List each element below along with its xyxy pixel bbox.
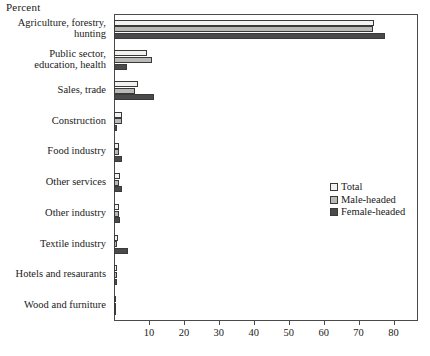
chart-legend: TotalMale-headedFemale-headed	[330, 181, 405, 219]
bar	[114, 272, 117, 278]
bar	[114, 88, 135, 94]
category-label: Food industry	[47, 145, 106, 157]
category-label: Textile industry	[40, 238, 106, 250]
bar-group	[114, 265, 418, 284]
bar	[114, 173, 120, 179]
x-axis-tick	[324, 321, 325, 325]
legend-swatch-female	[330, 208, 338, 216]
category-label: Agriculture, forestry,hunting	[18, 17, 106, 40]
x-axis-tick	[149, 321, 150, 325]
bar-group	[114, 296, 418, 315]
bar	[114, 204, 119, 210]
x-axis-tick	[254, 321, 255, 325]
legend-swatch-male	[330, 196, 338, 204]
bar	[114, 265, 117, 271]
legend-label: Total	[341, 181, 362, 194]
x-axis-tick-label: 70	[346, 327, 372, 338]
bar	[114, 217, 120, 223]
category-label: Public sector,education, health	[34, 48, 106, 71]
x-axis-tick	[184, 321, 185, 325]
x-axis-tick	[289, 321, 290, 325]
bar	[114, 112, 122, 118]
bar-group	[114, 81, 418, 100]
x-axis-tick-label: 30	[206, 327, 232, 338]
legend-label: Female-headed	[341, 206, 405, 219]
bar	[114, 296, 116, 302]
category-label: Sales, trade	[58, 84, 106, 96]
x-axis-tick-label: 40	[241, 327, 267, 338]
bar-group	[114, 112, 418, 131]
bar	[114, 241, 117, 247]
bar-group	[114, 50, 418, 69]
x-axis-tick-label: 10	[136, 327, 162, 338]
bar-group	[114, 143, 418, 162]
bar	[114, 64, 127, 70]
legend-item: Total	[330, 181, 405, 194]
x-axis-tick-label: 60	[311, 327, 337, 338]
bar	[114, 149, 119, 155]
bar	[114, 279, 117, 285]
x-axis-tick-label: 20	[171, 327, 197, 338]
bar	[114, 33, 385, 39]
category-label: Other industry	[45, 207, 106, 219]
bar	[114, 186, 122, 192]
bar	[114, 211, 119, 217]
category-label: Wood and furniture	[24, 299, 106, 311]
category-label: Other services	[46, 176, 106, 188]
category-axis-labels: Agriculture, forestry,huntingPublic sect…	[0, 14, 110, 321]
bar	[114, 303, 116, 309]
legend-label: Male-headed	[341, 194, 396, 207]
x-axis-tick-label: 80	[381, 327, 407, 338]
x-axis-tick	[394, 321, 395, 325]
bar	[114, 143, 119, 149]
bar	[114, 309, 116, 315]
category-label: Hotels and resaurants	[16, 268, 106, 280]
bar-group	[114, 20, 418, 39]
legend-swatch-total	[330, 183, 338, 191]
bar	[114, 50, 147, 56]
x-axis-tick	[359, 321, 360, 325]
category-label: Construction	[52, 115, 106, 127]
bar	[114, 57, 152, 63]
legend-item: Female-headed	[330, 206, 405, 219]
bar	[114, 156, 122, 162]
bar	[114, 180, 119, 186]
bar	[114, 26, 373, 32]
bar	[114, 248, 128, 254]
x-axis-tick	[219, 321, 220, 325]
bar-group	[114, 235, 418, 254]
percent-axis-label: Percent	[6, 1, 40, 13]
legend-item: Male-headed	[330, 194, 405, 207]
bar	[114, 81, 138, 87]
x-axis-tick-label: 50	[276, 327, 302, 338]
bar	[114, 125, 117, 131]
bars-layer	[114, 14, 418, 321]
bar	[114, 20, 374, 26]
bar	[114, 235, 118, 241]
bar-chart: Percent Agriculture, forestry,huntingPub…	[0, 0, 430, 356]
bar	[114, 118, 122, 124]
bar	[114, 94, 154, 100]
